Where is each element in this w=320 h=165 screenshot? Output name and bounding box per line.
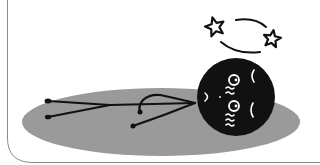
star-icon <box>203 15 226 37</box>
dizzy-stars <box>203 15 282 53</box>
star-icon <box>262 29 282 48</box>
illustration-frame <box>0 0 320 165</box>
head <box>197 58 275 136</box>
